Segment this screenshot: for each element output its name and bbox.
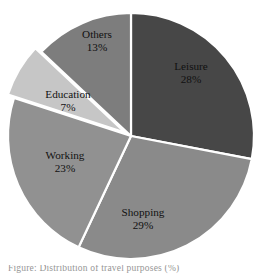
figure-caption: Figure: Distribution of travel purposes … (8, 265, 258, 273)
pie-slice-value-leisure: 28% (181, 73, 202, 85)
pie-slice-label-working: Working (46, 149, 85, 161)
pie-slice-value-shopping: 29% (133, 219, 154, 231)
pie-chart-figure: Leisure28%Shopping29%Working23%Education… (0, 0, 263, 274)
pie-slice-label-education: Education (45, 88, 91, 100)
pie-slices-group (8, 13, 254, 259)
pie-slice-leisure (131, 13, 254, 159)
pie-slice-value-working: 23% (55, 162, 76, 174)
pie-slice-value-education: 7% (61, 101, 76, 113)
pie-slice-label-shopping: Shopping (122, 206, 165, 218)
pie-slice-label-leisure: Leisure (174, 60, 208, 72)
figure-caption-strip: Figure: Distribution of travel purposes … (0, 265, 263, 274)
pie-chart-canvas: Leisure28%Shopping29%Working23%Education… (0, 0, 263, 274)
pie-slice-label-others: Others (82, 28, 112, 40)
pie-slice-value-others: 13% (87, 41, 108, 53)
